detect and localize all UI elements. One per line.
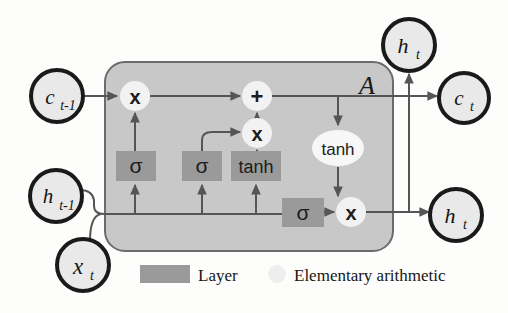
h-t-top-circle: [383, 19, 435, 71]
h-t-top-label: h: [398, 33, 409, 58]
node-x-t[interactable]: x t: [57, 239, 109, 291]
input-gate-layer[interactable]: σ: [182, 151, 222, 181]
candidate-tanh-label: tanh: [238, 157, 273, 177]
forget-multiply-label: x: [129, 86, 140, 108]
output-tanh-label: tanh: [321, 140, 354, 159]
state-add-label: +: [251, 84, 264, 109]
c-prev-subscript: t-1: [60, 98, 76, 113]
forget-gate-layer[interactable]: σ: [116, 151, 156, 181]
output-gate-label: σ: [297, 201, 310, 224]
legend-item-layer: Layer: [140, 265, 238, 285]
output-tanh-pointwise[interactable]: tanh: [312, 130, 364, 166]
h-prev-circle: [30, 170, 82, 222]
c-t-label: c: [454, 86, 464, 110]
node-c-t[interactable]: c t: [439, 73, 489, 123]
input-gate-label: σ: [196, 154, 209, 177]
node-h-prev[interactable]: h t-1: [30, 170, 82, 222]
legend-item-elementary: Elementary arithmetic: [268, 265, 446, 285]
legend: Layer Elementary arithmetic: [140, 265, 446, 285]
c-prev-label: c: [45, 85, 55, 109]
candidate-tanh-layer[interactable]: tanh: [231, 151, 281, 181]
c-t-circle: [439, 73, 489, 123]
h-t-bottom-circle: [430, 189, 482, 241]
output-multiply-op[interactable]: x: [336, 197, 366, 227]
legend-layer-swatch: [140, 265, 190, 283]
state-add-op[interactable]: +: [242, 81, 272, 111]
output-gate-layer[interactable]: σ: [282, 198, 324, 227]
legend-elementary-swatch: [268, 265, 286, 283]
input-multiply-label: x: [251, 123, 262, 145]
lstm-diagram-canvas: σ σ tanh σ tanh x: [0, 0, 508, 313]
legend-elementary-label: Elementary arithmetic: [294, 266, 446, 285]
legend-layer-label: Layer: [198, 266, 238, 285]
input-nodes: c t-1 h t-1 x t: [30, 70, 109, 291]
h-t-bottom-label: h: [445, 203, 456, 228]
node-c-prev[interactable]: c t-1: [31, 70, 83, 122]
edge-xt-to-input-bus: [90, 214, 101, 241]
output-multiply-label: x: [345, 202, 356, 224]
x-t-label: x: [72, 254, 84, 279]
forget-multiply-op[interactable]: x: [120, 81, 150, 111]
c-prev-circle: [31, 70, 83, 122]
node-h-t-top[interactable]: h t: [383, 19, 435, 71]
input-multiply-op[interactable]: x: [242, 118, 272, 148]
h-prev-label: h: [43, 184, 54, 208]
lstm-diagram-svg: σ σ tanh σ tanh x: [0, 0, 508, 313]
forget-gate-label: σ: [130, 154, 143, 177]
output-nodes: h t c t h t: [383, 19, 489, 241]
cell-name-label: A: [357, 71, 375, 100]
h-prev-subscript: t-1: [59, 198, 75, 213]
node-h-t-bottom[interactable]: h t: [430, 189, 482, 241]
